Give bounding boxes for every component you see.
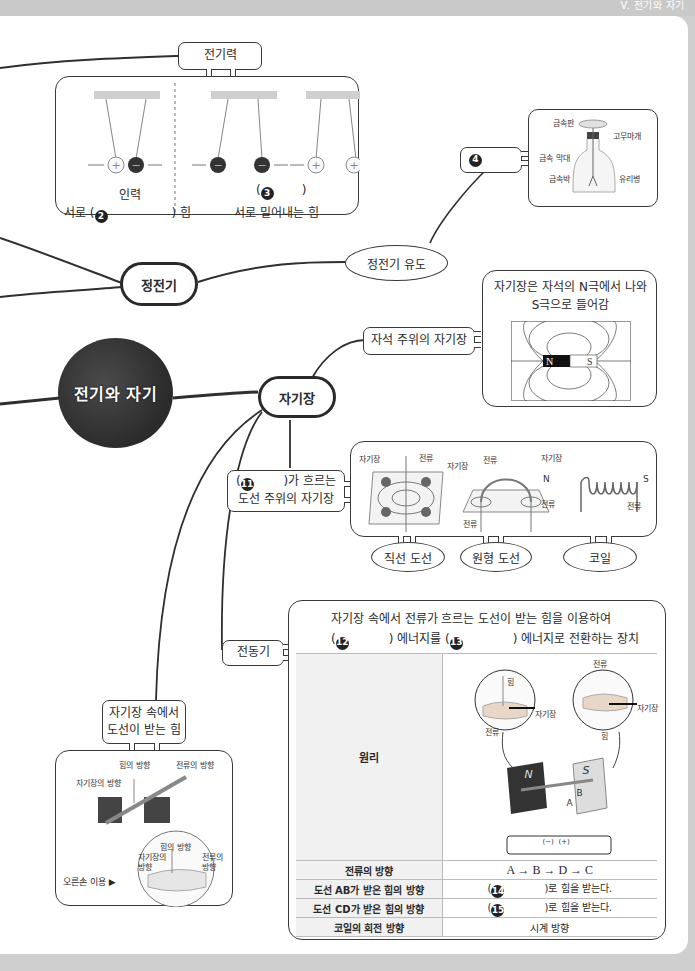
fig-label: N	[543, 474, 550, 484]
magnetic-field-label: 자기장	[279, 388, 315, 407]
svg-text:N: N	[546, 356, 553, 367]
fig-label: 전류	[419, 452, 433, 463]
electrostatic-induction-node[interactable]: 정전기 유도	[345, 245, 448, 281]
blank-number-4: 4	[469, 154, 482, 167]
blank-number-12: 12	[336, 637, 349, 650]
table-row: 코일의 회전 방향 시계 방향	[296, 918, 657, 937]
table-row: 도선 AB가 받은 힘의 방향 (14)로 힘을 받는다.	[296, 880, 657, 899]
blank-number-13: 13	[450, 637, 463, 650]
electric-force-label: 전기력	[204, 47, 237, 64]
current-wire-field-node[interactable]: (11)가 흐르는 도선 주위의 자기장	[227, 470, 345, 512]
svg-text:+: +	[111, 159, 120, 172]
central-topic-node[interactable]: 전기와 자기	[58, 338, 173, 448]
fig-label: S	[643, 474, 649, 484]
motor-node[interactable]: 전동기	[222, 640, 284, 666]
motor-label: 전동기	[237, 644, 270, 661]
attraction-desc: 서로 (2) 힘	[64, 203, 191, 223]
magnetic-field-node[interactable]: 자기장	[258, 376, 336, 418]
fig-label: 전류	[483, 454, 497, 465]
coil-node[interactable]: 코일	[563, 542, 637, 572]
force-on-wire-node[interactable]: 자기장 속에서 도선이 받는 힘	[102, 700, 186, 744]
svg-text:−: −	[131, 159, 140, 172]
fig-label: 힘의 방향	[160, 841, 191, 852]
connector	[129, 743, 135, 750]
svg-text:−: −	[213, 159, 222, 172]
connector	[206, 69, 212, 76]
wire-field-illustrations	[351, 442, 658, 538]
connector	[521, 160, 528, 166]
pith-ball-illustration: + − − − + +	[56, 77, 360, 216]
fig-label: 전류의 방향	[202, 853, 230, 874]
blank-number-3: 3	[261, 187, 274, 200]
table-row: 전류의 방향 A → B → D → C	[296, 861, 657, 880]
blank-number-14: 14	[491, 885, 504, 898]
table-row: 원리 전류 힘 자기장 전류 자기장 힘 N	[296, 654, 657, 861]
magnet-field-desc: 자기장은 자석의 N극에서 나와 S극으로 들어감	[483, 278, 658, 314]
connector	[154, 743, 160, 750]
fig-label: 힘의 방향	[119, 759, 150, 770]
fig-label: 자기장	[447, 460, 468, 471]
table-row: 도선 CD가 받은 힘의 방향 (15)로 힘을 받는다.	[296, 899, 657, 918]
magnet-field-panel: 자기장은 자석의 N극에서 나와 S극으로 들어감 N S	[482, 270, 657, 407]
fig-label: 자기장	[541, 452, 562, 463]
svg-text:+: +	[311, 159, 320, 172]
electroscope-panel: 금속판 고무마개 금속 막대 금속박 유리병	[528, 109, 658, 207]
static-electricity-node[interactable]: 정전기	[120, 262, 198, 306]
bar-magnet-field-diagram: N S	[511, 321, 631, 401]
motor-table: 원리 전류 힘 자기장 전류 자기장 힘 N	[296, 653, 657, 937]
fig-label: 자기장의 방향	[76, 777, 121, 788]
blank-number-11: 11	[241, 478, 254, 491]
electric-force-node[interactable]: 전기력	[178, 42, 262, 70]
electric-force-panel: + − − − + + 인력 서로 (2) 힘 (3) 서로 밀어내는 힘	[55, 76, 359, 215]
connector	[521, 151, 528, 157]
label-glass-bottle: 유리병	[619, 173, 640, 184]
blank-4-node[interactable]: 4	[460, 147, 522, 173]
right-hand-rule-label: 오른손 이용 ▶	[63, 875, 116, 888]
force-on-wire-panel: 힘의 방향 전류의 방향 자기장의 방향 힘의 방향 자기장의 방향 전류의 방…	[55, 750, 233, 906]
circular-wire-node[interactable]: 원형 도선	[460, 542, 532, 572]
svg-text:+: +	[349, 159, 358, 172]
label-metal-rod: 금속 막대	[539, 152, 570, 163]
label-metal-plate: 금속판	[553, 117, 574, 128]
fig-label: 전류의 방향	[176, 759, 214, 770]
connector	[474, 331, 481, 337]
central-topic-label: 전기와 자기	[74, 381, 158, 405]
fig-label: 전류	[463, 518, 477, 529]
fig-label: 자기장의 방향	[138, 853, 168, 874]
blank-number-15: 15	[491, 904, 504, 917]
blank-number-2: 2	[95, 210, 108, 223]
magnet-field-node[interactable]: 자석 주위의 자기장	[363, 327, 475, 355]
fig-label: 자기장	[359, 453, 380, 464]
svg-text:−: −	[257, 159, 266, 172]
motor-desc: 자기장 속에서 전류가 흐르는 도선이 받는 힘을 이용하여 (12) 에너지를…	[331, 609, 639, 650]
straight-wire-node[interactable]: 직선 도선	[371, 542, 445, 572]
motor-principle-figure: 전류 힘 자기장 전류 자기장 힘 N S A B (−) (+)	[442, 654, 657, 861]
motor-illustration	[443, 658, 657, 858]
wire-field-panel: 자기장 전류 자기장 전류 전류 자기장 N S 전류 전류	[350, 441, 657, 537]
connector	[230, 69, 236, 76]
repulsion-blank: (3)	[256, 183, 306, 200]
fig-label: 전류	[541, 498, 555, 509]
connector	[474, 342, 481, 348]
fig-label: 전류	[627, 500, 641, 511]
label-rubber-stopper: 고무마개	[613, 130, 641, 141]
electrostatic-induction-label: 정전기 유도	[367, 255, 426, 272]
attraction-label: 인력	[119, 185, 141, 202]
svg-text:S: S	[587, 356, 593, 367]
magnet-field-label: 자석 주위의 자기장	[371, 332, 467, 349]
label-metal-foil: 금속박	[549, 173, 570, 184]
repulsion-desc: 서로 밀어내는 힘	[234, 203, 319, 220]
static-electricity-label: 정전기	[141, 275, 177, 294]
row-key: 원리	[296, 654, 442, 861]
